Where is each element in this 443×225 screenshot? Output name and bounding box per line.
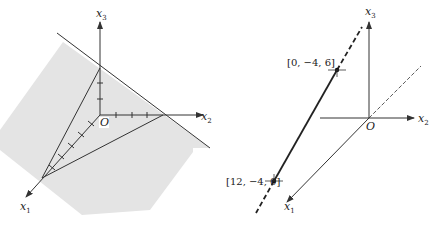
line-segment — [274, 70, 337, 181]
right-figure: [0, −4, 6] [12, −4, 0] x3 x2 x1 O — [226, 5, 429, 215]
x1-label: x1 — [284, 200, 295, 215]
x2-label: x2 — [418, 112, 429, 127]
line-extension-upper — [337, 27, 362, 70]
point-label-1: [12, −4, 0] — [226, 176, 280, 187]
x3-label: x3 — [96, 7, 107, 22]
point-label-0: [0, −4, 6] — [287, 57, 335, 68]
origin-label: O — [366, 120, 375, 133]
x1-axis — [287, 118, 369, 202]
x1-negative-dashed — [369, 66, 421, 118]
x1-label: x1 — [20, 200, 31, 215]
x2-label: x2 — [201, 110, 212, 125]
left-figure: x3 x2 x1 O — [0, 7, 212, 215]
x3-label: x3 — [365, 5, 376, 20]
diagram-canvas: x3 x2 x1 O [0, −4, 6] [12, −4, 0] x3 x2 … — [0, 0, 443, 225]
origin-label: O — [100, 116, 109, 129]
